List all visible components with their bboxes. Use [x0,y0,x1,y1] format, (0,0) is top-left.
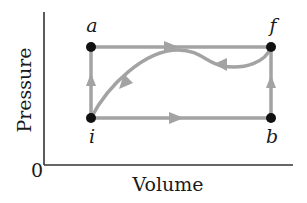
arrow-up-icon [86,73,96,86]
arrow-up-icon [266,75,276,88]
point-a [86,42,96,52]
pv-diagram: a f i b 0 Volume Pressure [0,0,307,203]
point-i [86,113,96,123]
point-b [266,113,276,123]
point-f [266,42,276,52]
label-i: i [89,125,95,147]
label-f: f [267,14,279,36]
label-b: b [266,125,278,147]
path-f-to-i-curve [91,47,271,118]
origin-label: 0 [31,159,43,181]
label-a: a [86,14,97,36]
arrow-left-icon [214,58,227,71]
y-axis-label: Pressure [13,47,35,132]
arrow-right-icon [169,112,184,124]
x-axis-label: Volume [132,173,204,195]
